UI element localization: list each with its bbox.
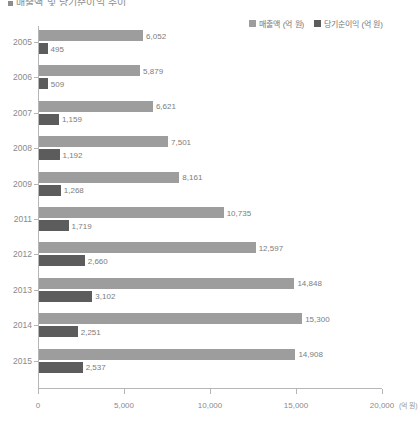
- bar-value-label: 2,251: [81, 327, 101, 336]
- bar-value-label: 2,537: [86, 363, 106, 372]
- bar-row: 20065,879509: [39, 65, 382, 89]
- bar-revenue: 14,848: [39, 278, 294, 289]
- chart-title: 매출액 및 당기순이익 추이: [8, 0, 126, 6]
- bar-net-income: 2,251: [39, 326, 78, 337]
- y-axis-tick: [34, 325, 39, 326]
- bar-revenue: 6,621: [39, 101, 153, 112]
- bar-net-income: 1,268: [39, 185, 61, 196]
- square-bullet-icon: [8, 1, 13, 6]
- bar-value-label: 14,908: [298, 350, 322, 359]
- bar-row: 201212,5972,660: [39, 242, 382, 266]
- x-axis-tick-label: 15,000: [284, 401, 308, 410]
- bar-value-label: 15,300: [305, 314, 329, 323]
- bar-row: 20056,052495: [39, 30, 382, 54]
- bar-net-income: 509: [39, 78, 48, 89]
- y-axis-tick: [34, 254, 39, 255]
- y-axis-tick: [34, 184, 39, 185]
- bar-net-income: 1,159: [39, 114, 59, 125]
- y-axis-category-label: 2006: [13, 72, 32, 82]
- x-axis-tick: [38, 389, 39, 394]
- chart-title-text: 매출액 및 당기순이익 추이: [16, 0, 126, 6]
- bar-revenue: 14,908: [39, 349, 295, 360]
- x-axis-tick-label: 0: [36, 401, 40, 410]
- y-axis-tick: [34, 148, 39, 149]
- x-axis-tick: [124, 389, 125, 394]
- bar-value-label: 7,501: [171, 137, 191, 146]
- bar-row: 20076,6211,159: [39, 101, 382, 125]
- bar-revenue: 10,735: [39, 207, 224, 218]
- bar-value-label: 1,159: [62, 115, 82, 124]
- y-axis-tick: [34, 77, 39, 78]
- bar-value-label: 6,621: [156, 102, 176, 111]
- bar-value-label: 1,719: [72, 221, 92, 230]
- x-axis-unit-label: (억 원): [399, 400, 418, 410]
- bar-value-label: 509: [51, 79, 64, 88]
- y-axis-tick: [34, 361, 39, 362]
- y-axis-category-label: 2005: [13, 37, 32, 47]
- bar-row: 201110,7351,719: [39, 207, 382, 231]
- y-axis-category-label: 2008: [13, 143, 32, 153]
- bar-net-income: 2,660: [39, 255, 85, 266]
- bar-revenue: 7,501: [39, 136, 168, 147]
- y-axis-category-label: 2013: [13, 285, 32, 295]
- y-axis-tick: [34, 290, 39, 291]
- y-axis-category-label: 2014: [13, 320, 32, 330]
- bar-value-label: 495: [51, 44, 64, 53]
- bar-revenue: 8,161: [39, 172, 179, 183]
- bar-net-income: 3,102: [39, 291, 92, 302]
- x-axis-tick-label: 20,000: [370, 401, 394, 410]
- bar-row: 201415,3002,251: [39, 313, 382, 337]
- bar-net-income: 1,719: [39, 220, 69, 231]
- bar-net-income: 495: [39, 43, 48, 54]
- bar-value-label: 3,102: [95, 292, 115, 301]
- bar-value-label: 12,597: [259, 243, 283, 252]
- bar-value-label: 1,192: [63, 150, 83, 159]
- y-axis-tick: [34, 42, 39, 43]
- y-axis-category-label: 2007: [13, 108, 32, 118]
- x-axis-tick-label: 5,000: [114, 401, 134, 410]
- bar-value-label: 1,268: [64, 186, 84, 195]
- bar-revenue: 12,597: [39, 242, 256, 253]
- bar-revenue: 15,300: [39, 313, 302, 324]
- x-axis-tick: [382, 389, 383, 394]
- bar-value-label: 5,879: [143, 66, 163, 75]
- bar-value-label: 10,735: [227, 208, 251, 217]
- bar-value-label: 6,052: [146, 31, 166, 40]
- x-axis-tick: [296, 389, 297, 394]
- y-axis-category-label: 2012: [13, 249, 32, 259]
- bar-row: 20098,1611,268: [39, 172, 382, 196]
- x-axis-tick: [210, 389, 211, 394]
- bar-revenue: 5,879: [39, 65, 140, 76]
- bar-row: 201514,9082,537: [39, 349, 382, 373]
- bar-row: 20087,5011,192: [39, 136, 382, 160]
- plot-area: 05,00010,00015,00020,000(억 원) 20056,0524…: [38, 26, 382, 394]
- y-axis-tick: [34, 113, 39, 114]
- y-axis-tick: [34, 219, 39, 220]
- bar-value-label: 8,161: [182, 173, 202, 182]
- bar-value-label: 14,848: [297, 279, 321, 288]
- bar-net-income: 1,192: [39, 149, 60, 160]
- y-axis-category-label: 2009: [13, 179, 32, 189]
- bar-row: 201314,8483,102: [39, 278, 382, 302]
- bar-revenue: 6,052: [39, 30, 143, 41]
- bar-value-label: 2,660: [88, 256, 108, 265]
- bar-net-income: 2,537: [39, 362, 83, 373]
- y-axis-category-label: 2015: [13, 356, 32, 366]
- y-axis-category-label: 2011: [14, 214, 32, 224]
- x-axis-tick-label: 10,000: [198, 401, 222, 410]
